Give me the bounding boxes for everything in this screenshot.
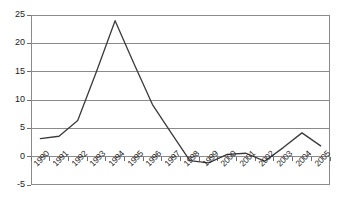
- y-tick-label: -5: [3, 180, 25, 189]
- data-series-line: [0, 0, 348, 202]
- y-tick-label: 15: [3, 67, 25, 76]
- series-line: [40, 21, 320, 163]
- y-tick-label: 10: [3, 95, 25, 104]
- line-chart: -50510152025 199019911992199319941995199…: [0, 0, 348, 202]
- y-tick-label: 5: [3, 123, 25, 132]
- y-tick-label: 20: [3, 38, 25, 47]
- y-tick-label: 0: [3, 152, 25, 161]
- y-tick-label: 25: [3, 10, 25, 19]
